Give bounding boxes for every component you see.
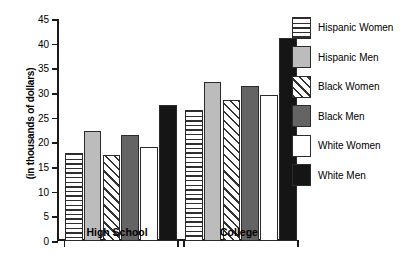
y-tick-label: 5 (43, 216, 49, 217)
y-tick-label: 45 (38, 19, 49, 20)
group-bracket-tick (297, 240, 299, 247)
y-tick-mark (52, 167, 58, 169)
group-bracket-tick (64, 240, 66, 247)
legend-label: Hispanic Women (318, 22, 393, 33)
x-axis-group-label: College (180, 226, 298, 238)
y-tick-mark (52, 44, 58, 46)
legend-swatch (292, 164, 311, 186)
group-bracket-tick (183, 240, 185, 247)
y-tick-label: 30 (38, 93, 49, 94)
legend-label: Hispanic Men (318, 52, 379, 63)
y-tick-mark (52, 93, 58, 95)
bar (204, 82, 222, 241)
legend-label: Black Men (318, 111, 365, 122)
group-bracket-tick (177, 240, 179, 247)
bar (241, 86, 259, 241)
x-axis-group-label: High School (57, 226, 177, 238)
y-tick-mark (52, 192, 58, 194)
legend-item[interactable]: White Men (292, 161, 404, 191)
bar (260, 95, 278, 241)
y-tick-mark (52, 118, 58, 120)
bar (84, 131, 102, 241)
legend-label: Black Women (318, 81, 380, 92)
y-tick-mark (52, 19, 58, 21)
y-axis-title: (in thousands of dollars) (25, 34, 36, 214)
plot-area: 051015202530354045 (57, 19, 287, 241)
legend-item[interactable]: Hispanic Women (292, 13, 404, 43)
y-tick-label: 10 (38, 192, 49, 193)
legend-swatch (292, 105, 311, 127)
legend-label: White Women (318, 140, 381, 151)
y-tick-label: 15 (38, 167, 49, 168)
y-tick-label: 20 (38, 142, 49, 143)
y-tick-label: 35 (38, 68, 49, 69)
legend-swatch (292, 17, 311, 39)
y-tick-mark (52, 241, 58, 243)
legend-item[interactable]: Black Men (292, 102, 404, 132)
legend-item[interactable]: Hispanic Men (292, 43, 404, 73)
y-tick-label: 40 (38, 44, 49, 45)
bar (223, 100, 241, 241)
y-tick-mark (52, 68, 58, 70)
bar (159, 105, 177, 241)
legend-item[interactable]: Black Women (292, 72, 404, 102)
chart-legend: Hispanic WomenHispanic MenBlack WomenBla… (292, 13, 404, 190)
y-axis-line (57, 19, 59, 241)
y-tick-label: 0 (43, 241, 49, 242)
legend-swatch (292, 76, 311, 98)
legend-swatch (292, 135, 311, 157)
y-tick-mark (52, 142, 58, 144)
legend-label: White Men (318, 170, 366, 181)
y-tick-label: 25 (38, 118, 49, 119)
chart-container: (in thousands of dollars) 05101520253035… (0, 0, 404, 270)
legend-swatch (292, 46, 311, 68)
legend-item[interactable]: White Women (292, 131, 404, 161)
bar (185, 110, 203, 241)
y-tick-mark (52, 216, 58, 218)
